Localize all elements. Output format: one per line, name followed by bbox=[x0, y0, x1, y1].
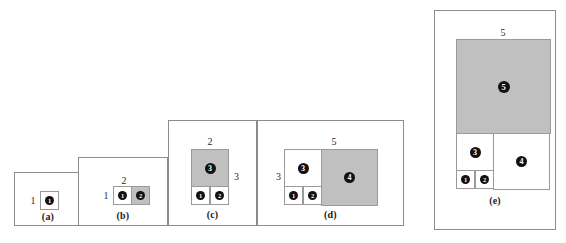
panel-d-dim-top: 5 bbox=[303, 137, 365, 147]
panel-d-square-2: 2 bbox=[303, 186, 322, 205]
panel-d-badge-4: 4 bbox=[344, 172, 355, 183]
panel-d-square-4: 4 bbox=[321, 149, 378, 206]
panel-c-square-1: 1 bbox=[191, 186, 210, 205]
panel-a: 1 1 (a) bbox=[14, 172, 82, 226]
panel-b-caption: (b) bbox=[79, 210, 167, 221]
panel-e-badge-3: 3 bbox=[470, 147, 481, 158]
panel-b-square-1: 1 bbox=[113, 186, 132, 205]
panel-e-square-4: 4 bbox=[493, 133, 550, 190]
panel-d-square-1: 1 bbox=[284, 186, 303, 205]
panel-b-square-2: 2 bbox=[131, 186, 150, 205]
panel-e-badge-4: 4 bbox=[516, 156, 527, 167]
panel-e-caption: (e) bbox=[435, 195, 555, 206]
panel-c-badge-2: 2 bbox=[215, 191, 224, 200]
panel-c-dim-top: 2 bbox=[193, 137, 227, 147]
panel-d: 5 3 3 1 2 4 (d) bbox=[257, 120, 404, 226]
panel-c-caption: (c) bbox=[169, 209, 256, 220]
panel-e-square-2: 2 bbox=[475, 170, 494, 189]
panel-e-badge-1: 1 bbox=[461, 175, 470, 184]
panel-a-square-1: 1 bbox=[40, 191, 59, 210]
panel-d-caption: (d) bbox=[258, 209, 403, 220]
panel-d-square-3: 3 bbox=[284, 149, 322, 187]
panel-a-badge-1: 1 bbox=[45, 196, 54, 205]
panel-e-badge-2: 2 bbox=[480, 175, 489, 184]
panel-e-square-3: 3 bbox=[456, 133, 494, 171]
panel-b: 2 1 1 2 (b) bbox=[78, 157, 168, 226]
panel-e-square-1: 1 bbox=[456, 170, 475, 189]
panel-d-badge-1: 1 bbox=[289, 191, 298, 200]
panel-d-dim-left: 3 bbox=[274, 172, 283, 182]
panel-d-badge-3: 3 bbox=[298, 163, 309, 174]
panel-c-square-3: 3 bbox=[191, 149, 229, 187]
panel-e-dim-top: 5 bbox=[456, 28, 550, 38]
fibonacci-squares-figure: 1 1 (a) 2 1 1 2 (b) 2 3 3 1 bbox=[0, 0, 566, 243]
panel-e: 5 8 5 3 1 2 4 (e) bbox=[434, 10, 556, 230]
panel-e-square-5: 5 bbox=[456, 39, 551, 134]
panel-c-dim-right: 3 bbox=[232, 172, 241, 182]
panel-a-dim-left: 1 bbox=[29, 196, 37, 206]
panel-c-badge-3: 3 bbox=[205, 163, 216, 174]
panel-c-square-2: 2 bbox=[210, 186, 229, 205]
panel-b-dim-top: 2 bbox=[114, 176, 134, 186]
panel-b-badge-2: 2 bbox=[136, 191, 145, 200]
panel-b-badge-1: 1 bbox=[118, 191, 127, 200]
panel-c: 2 3 3 1 2 (c) bbox=[168, 120, 257, 226]
panel-e-badge-5: 5 bbox=[498, 81, 510, 93]
panel-b-dim-left: 1 bbox=[102, 191, 110, 201]
panel-a-caption: (a) bbox=[15, 211, 81, 222]
panel-c-badge-1: 1 bbox=[196, 191, 205, 200]
panel-d-badge-2: 2 bbox=[308, 191, 317, 200]
